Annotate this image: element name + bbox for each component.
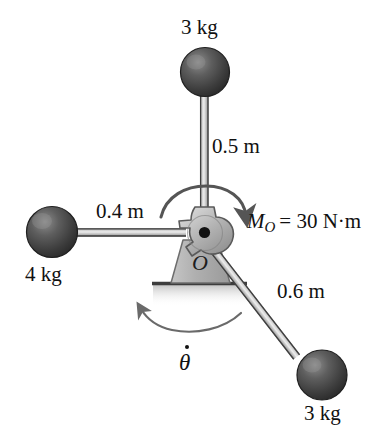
sphere-top (181, 48, 230, 97)
sphere-lower-right (297, 350, 347, 400)
label-mass-lower-right: 3 kg (304, 403, 341, 424)
label-mass-left: 4 kg (25, 264, 62, 285)
label-pivot-o: O (192, 252, 208, 274)
pivot-hub (179, 207, 233, 256)
sphere-left (27, 207, 78, 258)
moment-value: = 30 N·m (279, 209, 361, 233)
label-length-left: 0.4 m (96, 201, 144, 222)
theta-dot-overdot (185, 345, 189, 349)
rod-left (62, 228, 186, 236)
label-length-top: 0.5 m (212, 136, 260, 157)
label-moment: MO= 30 N·m (247, 211, 361, 235)
physics-diagram: 3 kg 0.5 m 0.4 m 4 kg 0.6 m 3 kg MO= 30 … (0, 0, 387, 439)
label-mass-top: 3 kg (181, 17, 218, 38)
label-theta-dot: θ (179, 351, 190, 374)
ground-shadow (153, 284, 247, 306)
moment-symbol: M (247, 209, 265, 233)
pivot-point (199, 227, 210, 238)
moment-subscript: O (265, 219, 276, 235)
label-length-lower-right: 0.6 m (277, 281, 325, 302)
theta-dot-arc (141, 309, 241, 332)
